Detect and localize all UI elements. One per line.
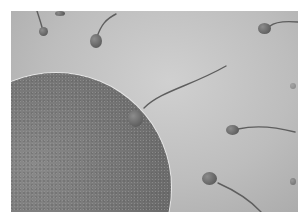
sperm-head	[55, 11, 65, 16]
sperm-head	[39, 27, 48, 36]
sperm-head	[290, 83, 296, 89]
sperm-head	[290, 178, 296, 185]
sperm-head	[226, 125, 239, 135]
sperm-head	[128, 110, 143, 127]
sperm-head	[90, 34, 102, 48]
sperm-head	[258, 23, 271, 34]
photo	[11, 11, 298, 212]
sperm-head	[202, 172, 217, 185]
